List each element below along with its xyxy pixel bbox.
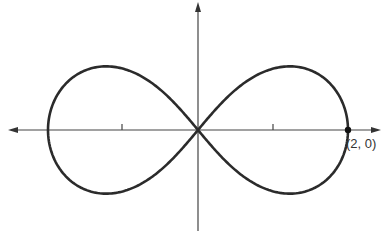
y-axis-arrow-icon [195, 2, 201, 12]
point-2-0 [345, 127, 351, 133]
x-axis-left-arrow-icon [8, 127, 18, 133]
lemniscate-diagram [0, 0, 389, 231]
x-axis-right-arrow-icon [371, 127, 381, 133]
point-label: (2, 0) [346, 136, 376, 151]
